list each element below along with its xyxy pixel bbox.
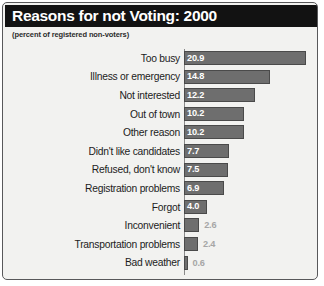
bar-track: 7.7 — [184, 142, 317, 161]
bar-value-label: 10.2 — [187, 127, 204, 138]
bar-category-label: Other reason — [3, 127, 180, 138]
bar-track: 10.2 — [184, 105, 317, 124]
bar-category-label: Not interested — [3, 90, 180, 101]
bar-row: Transportation problems2.4 — [3, 235, 317, 254]
page-title: Reasons for not Voting: 2000 — [5, 7, 217, 25]
bar-value-label: 7.7 — [187, 146, 199, 157]
bar — [184, 237, 198, 251]
bar-row: Out of town10.2 — [3, 105, 317, 124]
bar-value-label: 4.0 — [187, 201, 199, 212]
bar-category-label: Refused, don't know — [3, 164, 180, 175]
bar-track: 14.8 — [184, 68, 317, 87]
bar-category-label: Inconvenient — [3, 220, 180, 231]
bar-track: 10.2 — [184, 123, 317, 142]
bar-track: 4.0 — [184, 198, 317, 217]
bar-value-label: 6.9 — [187, 183, 199, 194]
bar-value-label: 12.2 — [187, 90, 204, 101]
bar-value-label: 14.8 — [187, 71, 204, 82]
chart-title-bar: Reasons for not Voting: 2000 — [5, 5, 317, 27]
bar-track: 7.5 — [184, 161, 317, 180]
bar-category-label: Didn't like candidates — [3, 146, 180, 157]
chart-subtitle: (percent of registered non-voters) — [12, 30, 129, 39]
bar-category-label: Too busy — [3, 53, 180, 64]
bar-value-label: 2.4 — [203, 239, 215, 250]
bar-category-label: Registration problems — [3, 183, 180, 194]
bar — [184, 256, 188, 270]
bar-row: Refused, don't know7.5 — [3, 161, 317, 180]
bar-track: 6.9 — [184, 179, 317, 198]
bar-category-label: Illness or emergency — [3, 71, 180, 82]
bar-value-label: 0.6 — [193, 258, 205, 269]
bar-track: 20.9 — [184, 49, 317, 68]
bar-chart-plot: Too busy20.9Illness or emergency14.8Not … — [3, 49, 317, 279]
bar-track: 2.6 — [184, 216, 317, 235]
bar-row: Too busy20.9 — [3, 49, 317, 68]
bar-track: 0.6 — [184, 254, 317, 273]
bar-category-label: Forgot — [3, 202, 180, 213]
bar-row: Illness or emergency14.8 — [3, 68, 317, 87]
chart-card: Reasons for not Voting: 2000 (percent of… — [2, 2, 318, 280]
bar-value-label: 7.5 — [187, 164, 199, 175]
bar-category-label: Bad weather — [3, 257, 180, 268]
bar — [184, 218, 199, 232]
bar-category-label: Out of town — [3, 109, 180, 120]
bar-row: Bad weather0.6 — [3, 254, 317, 273]
bar-row: Didn't like candidates7.7 — [3, 142, 317, 161]
bar-row: Inconvenient2.6 — [3, 216, 317, 235]
bar-row: Registration problems6.9 — [3, 179, 317, 198]
bar-track: 12.2 — [184, 86, 317, 105]
bar-value-label: 10.2 — [187, 108, 204, 119]
bar-category-label: Transportation problems — [3, 239, 180, 250]
bar-value-label: 2.6 — [204, 220, 216, 231]
bar-track: 2.4 — [184, 235, 317, 254]
bar-row: Not interested12.2 — [3, 86, 317, 105]
bar-value-label: 20.9 — [187, 53, 204, 64]
bar-row: Forgot4.0 — [3, 198, 317, 217]
bar-row: Other reason10.2 — [3, 123, 317, 142]
